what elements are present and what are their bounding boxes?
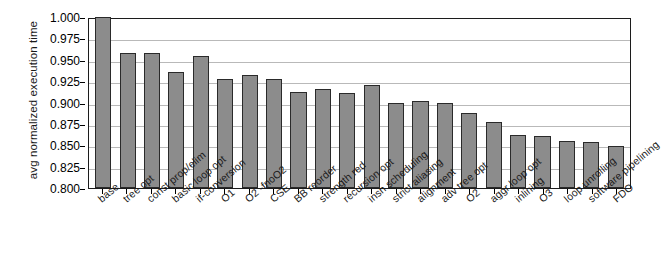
y-axis-tick-labels: 1.0000.9750.9500.9250.9000.8750.8500.825… xyxy=(40,11,84,195)
y-axis-tick-label: 0.850 xyxy=(50,139,80,153)
y-axis-tick-label: 0.800 xyxy=(50,182,80,196)
y-axis-tick-label: 0.825 xyxy=(50,161,80,175)
bar[interactable] xyxy=(290,92,306,188)
y-axis-tick-label: 0.875 xyxy=(50,118,80,132)
y-axis-tick-label: 0.950 xyxy=(50,54,80,68)
y-axis-tick-mark xyxy=(80,146,85,147)
bar-slot xyxy=(91,19,115,188)
bar-slot xyxy=(140,19,164,188)
bar-slot xyxy=(286,19,310,188)
bar[interactable] xyxy=(120,53,136,188)
x-axis-tick-labels: basetree optconst prop/elimbasic loop op… xyxy=(88,196,631,276)
bar[interactable] xyxy=(95,17,111,188)
bar-slot xyxy=(262,19,286,188)
y-axis-tick-mark xyxy=(80,82,85,83)
y-axis-tick-mark xyxy=(80,18,85,19)
y-axis-tick-mark xyxy=(80,39,85,40)
y-axis-tick-label: 1.000 xyxy=(50,11,80,25)
bar[interactable] xyxy=(144,53,160,188)
bar-slot xyxy=(115,19,139,188)
bar[interactable] xyxy=(559,141,575,188)
y-axis-tick-label: 0.925 xyxy=(50,75,80,89)
bar[interactable] xyxy=(242,75,258,188)
y-axis-tick-mark xyxy=(80,104,85,105)
y-axis-tick-label: 0.975 xyxy=(50,32,80,46)
y-axis-tick-mark xyxy=(80,189,85,190)
bar[interactable] xyxy=(486,122,502,188)
y-axis-tick-mark xyxy=(80,125,85,126)
bar-slot xyxy=(555,19,579,188)
y-axis-tick-mark xyxy=(80,61,85,62)
y-axis-tick-mark xyxy=(80,168,85,169)
y-axis-tick-label: 0.900 xyxy=(50,97,80,111)
